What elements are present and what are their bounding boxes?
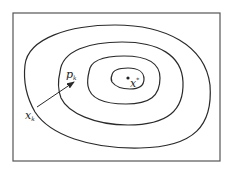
contour-diagram: x* pk xk: [0, 0, 230, 170]
plot-frame: [13, 13, 220, 161]
direction-label: pk: [66, 68, 77, 81]
search-direction-arrow: [37, 82, 74, 107]
start-point-label: xk: [25, 109, 35, 122]
contour-level-3: [88, 56, 160, 104]
contour-level-2: [59, 42, 183, 125]
